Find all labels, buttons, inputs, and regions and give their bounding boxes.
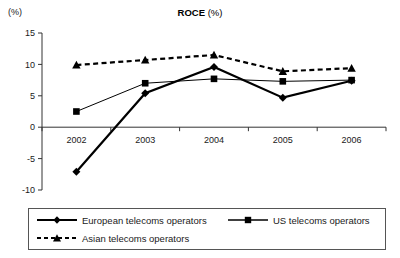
- y-axis-tick-label: 15: [25, 28, 35, 38]
- data-point-triangle: [347, 64, 355, 72]
- legend-label-european: European telecoms operators: [78, 215, 207, 226]
- legend-label-us: US telecoms operators: [269, 215, 370, 226]
- legend-item-us: US telecoms operators: [227, 214, 370, 226]
- data-point-square: [142, 80, 149, 87]
- y-axis-tick-label: -10: [22, 185, 35, 195]
- y-axis-tick-label: 0: [30, 122, 35, 132]
- plot-area: 151050-5-1020022003200420052006: [0, 0, 400, 205]
- data-point-square: [348, 77, 355, 84]
- y-axis-tick-label: 10: [25, 60, 35, 70]
- series-triangle: [72, 51, 356, 75]
- series-line: [76, 67, 351, 172]
- data-point-square: [73, 108, 80, 115]
- x-axis-tick-label: 2004: [204, 135, 224, 145]
- data-point-diamond: [210, 63, 218, 71]
- chart-page: (%) ROCE (%) 151050-5-102002200320042005…: [0, 0, 400, 258]
- x-axis-tick-label: 2006: [342, 135, 362, 145]
- data-point-square: [211, 76, 218, 83]
- x-axis-tick-label: 2002: [66, 135, 86, 145]
- legend-label-asian: Asian telecoms operators: [78, 233, 189, 244]
- x-axis-tick-label: 2005: [273, 135, 293, 145]
- x-axis-tick-label: 2003: [135, 135, 155, 145]
- legend-item-asian: Asian telecoms operators: [36, 232, 189, 244]
- series-line: [76, 79, 351, 112]
- data-point-square: [280, 78, 287, 85]
- y-axis-tick-label: 5: [30, 91, 35, 101]
- legend-item-european: European telecoms operators: [36, 214, 207, 226]
- legend-symbol-square: [227, 214, 269, 226]
- series-square: [73, 76, 355, 115]
- y-axis-tick-label: -5: [27, 154, 35, 164]
- legend-symbol-diamond: [36, 214, 78, 226]
- chart-legend: European telecoms operators US telecoms …: [28, 208, 386, 250]
- data-point-diamond: [279, 94, 287, 102]
- legend-symbol-triangle: [36, 232, 78, 244]
